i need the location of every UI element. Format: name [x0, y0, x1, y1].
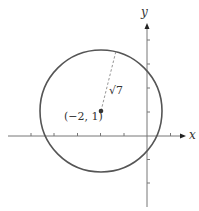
radius-dashed-line [101, 51, 116, 111]
y-axis [145, 23, 151, 207]
y-axis-label: y [141, 6, 148, 18]
x-axis-label: x [189, 129, 196, 141]
coordinate-plane [0, 0, 199, 211]
x-axis [8, 133, 186, 139]
radius-label: √7 [109, 85, 123, 96]
x-axis-arrow-icon [180, 134, 186, 139]
center-label: (−2, 1) [64, 111, 103, 122]
y-axis-arrow-icon [145, 23, 150, 29]
